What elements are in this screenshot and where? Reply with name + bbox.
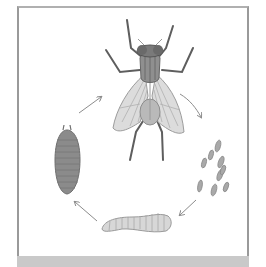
eggs-illustration: [197, 140, 230, 197]
adult-fly-illustration: [106, 20, 193, 160]
arrow-larva-to-pupa-icon: [75, 202, 97, 221]
larva-illustration: [102, 213, 171, 232]
arrow-pupa-to-adult-icon: [79, 97, 101, 113]
pupa-illustration: [55, 125, 80, 194]
arrow-adult-to-eggs-icon: [180, 94, 201, 117]
life-cycle-diagram: [0, 0, 266, 267]
arrow-eggs-to-larva-icon: [180, 200, 196, 215]
